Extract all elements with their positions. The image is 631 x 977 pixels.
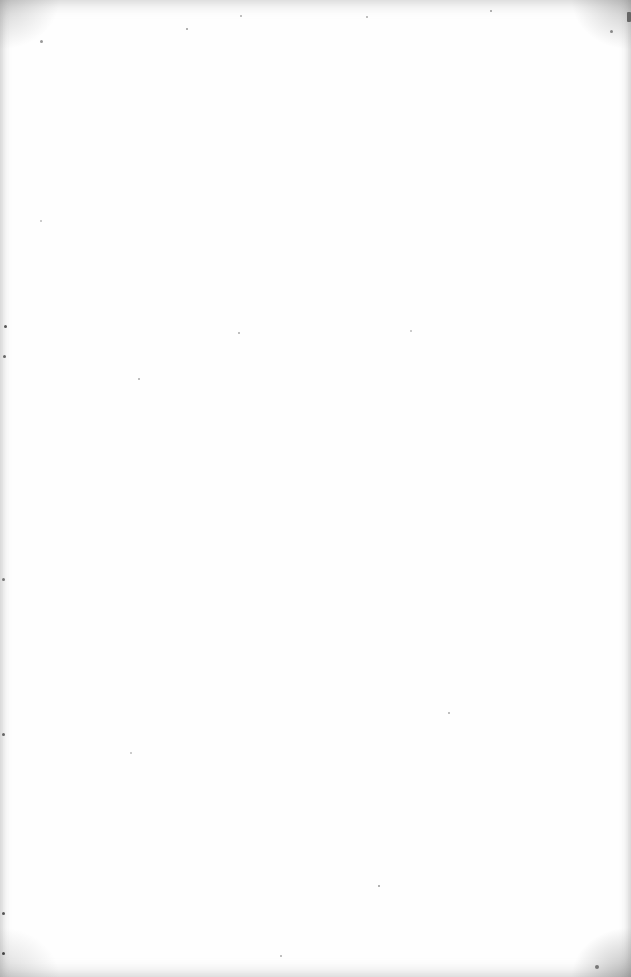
scan-speck <box>280 955 282 957</box>
scan-speck <box>240 15 242 17</box>
scan-speck <box>130 752 132 754</box>
scan-speck <box>448 712 450 714</box>
scan-edge-vignette <box>0 0 631 977</box>
scan-speck <box>186 28 188 30</box>
scan-corner-shadow <box>571 0 631 50</box>
scan-speck <box>238 332 240 334</box>
scan-speck <box>4 325 7 328</box>
scan-corner-shadow <box>0 927 60 977</box>
scan-corner-shadow <box>571 927 631 977</box>
scan-speck <box>378 885 380 887</box>
scan-speck <box>2 578 5 581</box>
scan-speck <box>490 10 492 12</box>
scan-speck <box>595 965 599 969</box>
scan-speck <box>610 30 613 33</box>
scan-corner-shadow <box>0 0 60 50</box>
scan-speck <box>40 220 42 222</box>
scan-speck <box>2 733 5 736</box>
scan-speck <box>2 912 5 915</box>
scan-speck <box>410 330 412 332</box>
blank-scanned-page <box>0 0 631 977</box>
scan-speck <box>2 952 5 955</box>
scan-speck <box>627 12 631 22</box>
scan-speck <box>366 16 368 18</box>
scan-speck <box>138 378 140 380</box>
scan-speck <box>40 40 43 43</box>
scan-speck <box>3 355 6 358</box>
